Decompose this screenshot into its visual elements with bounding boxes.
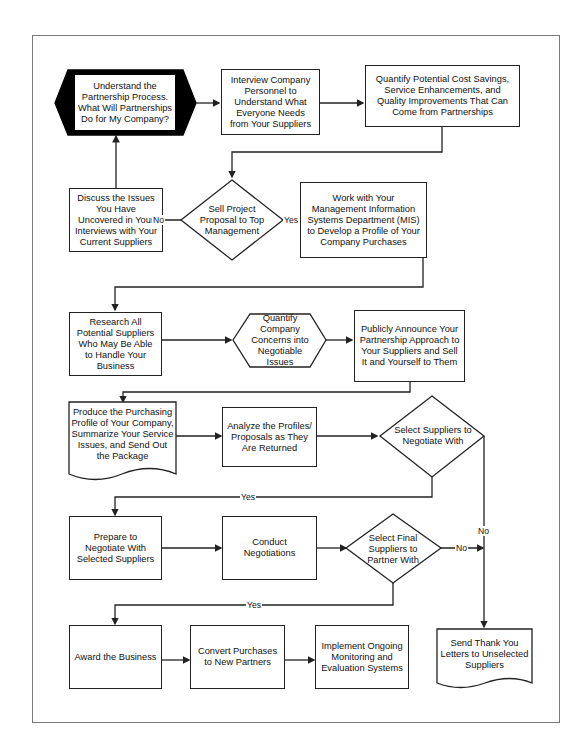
process-quantify-concerns[interactable]: Quantify Company Concerns into Negotiabl…: [248, 316, 312, 365]
process-convert-purchases[interactable]: Convert Purchases to New Partners: [190, 625, 285, 689]
process-work-with-mis[interactable]: Work with Your Management Information Sy…: [300, 182, 427, 258]
node-text: Produce the Purchasing Profile of Your C…: [71, 407, 174, 462]
label-d2-no: No: [477, 526, 490, 536]
document-produce-purchasing-profile[interactable]: Produce the Purchasing Profile of Your C…: [69, 403, 176, 465]
document-send-thank-you-letters[interactable]: Send Thank You Letters to Unselected Sup…: [437, 630, 532, 678]
process-publicly-announce[interactable]: Publicly Announce Your Partnership Appro…: [354, 310, 465, 382]
process-quantify-cost-savings[interactable]: Quantify Potential Cost Savings, Service…: [365, 65, 520, 127]
process-conduct-negotiations[interactable]: Conduct Negotiations: [222, 516, 317, 580]
decision-select-final-suppliers[interactable]: Select Final Suppliers to Partner With: [358, 530, 428, 568]
decision-sell-project-proposal[interactable]: Sell Project Proposal to Top Management: [196, 200, 268, 240]
node-text: Select Final Suppliers to Partner With: [358, 533, 428, 566]
node-text: Select Suppliers to Negotiate With: [392, 425, 474, 447]
process-award-business[interactable]: Award the Business: [69, 625, 162, 689]
node-text: Award the Business: [75, 652, 157, 663]
label-d3-yes: Yes: [246, 600, 262, 610]
label-d1-no: No: [152, 215, 165, 225]
process-analyze-profiles[interactable]: Analyze the Profiles/ Proposals as They …: [222, 407, 317, 467]
process-research-suppliers[interactable]: Research All Potential Suppliers Who May…: [69, 312, 162, 376]
label-d2-yes: Yes: [240, 492, 256, 502]
node-text: Analyze the Profiles/ Proposals as They …: [227, 421, 312, 454]
node-text: Discuss the Issues You Have Uncovered in…: [74, 193, 158, 248]
start-node-understand-partnership[interactable]: Understand the Partnership Process. What…: [75, 75, 175, 130]
label-d3-no: No: [455, 543, 468, 553]
node-text: Quantify Company Concerns into Negotiabl…: [248, 313, 312, 368]
process-implement-monitoring[interactable]: Implement Ongoing Monitoring and Evaluat…: [315, 625, 409, 689]
decision-select-suppliers-negotiate[interactable]: Select Suppliers to Negotiate With: [392, 420, 474, 452]
node-text: Conduct Negotiations: [227, 537, 312, 559]
process-discuss-issues[interactable]: Discuss the Issues You Have Uncovered in…: [69, 188, 163, 252]
process-prepare-to-negotiate[interactable]: Prepare to Negotiate With Selected Suppl…: [69, 516, 162, 580]
node-text: Implement Ongoing Monitoring and Evaluat…: [320, 641, 404, 674]
label-d1-yes: Yes: [283, 215, 299, 225]
process-interview-personnel[interactable]: Interview Company Personnel to Understan…: [221, 69, 320, 135]
node-text: Sell Project Proposal to Top Management: [196, 204, 268, 237]
node-text: Quantify Potential Cost Savings, Service…: [370, 74, 515, 118]
node-text: Research All Potential Suppliers Who May…: [74, 317, 157, 372]
node-text: Publicly Announce Your Partnership Appro…: [359, 324, 460, 368]
node-text: Convert Purchases to New Partners: [195, 646, 280, 668]
node-text: Interview Company Personnel to Understan…: [226, 75, 315, 130]
start-node-text: Understand the Partnership Process. What…: [75, 81, 175, 125]
node-text: Send Thank You Letters to Unselected Sup…: [439, 638, 530, 671]
node-text: Work with Your Management Information Sy…: [305, 193, 422, 248]
node-text: Prepare to Negotiate With Selected Suppl…: [74, 532, 157, 565]
